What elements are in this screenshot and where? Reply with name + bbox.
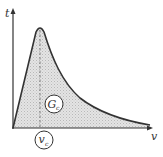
critical-separation-label: v c <box>35 131 53 149</box>
y-axis-label: t <box>5 7 10 20</box>
fracture-energy-label: G c <box>45 95 63 113</box>
x-axis-label: v <box>151 130 158 143</box>
y-axis-arrow-icon <box>11 8 16 14</box>
traction-separation-diagram: t v G c v c <box>0 0 163 157</box>
